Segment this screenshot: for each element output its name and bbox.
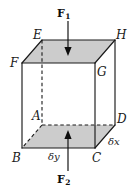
dimension-label-delta-y: δy bbox=[48, 152, 60, 162]
vertex-label-E: E bbox=[33, 29, 42, 41]
vertex-label-D: D bbox=[117, 113, 127, 125]
force-subscript-F2: 2 bbox=[65, 178, 70, 187]
vertex-label-H: H bbox=[116, 29, 126, 41]
force-label-F1: F1 bbox=[57, 8, 70, 19]
vertex-label-C: C bbox=[92, 152, 101, 164]
vertex-label-F: F bbox=[10, 57, 18, 69]
vertex-label-B: B bbox=[12, 152, 21, 164]
cube-force-diagram: E H F G A D B C δy δx F1 F2 bbox=[0, 0, 137, 191]
dimension-label-delta-x: δx bbox=[108, 137, 120, 147]
vertex-label-G: G bbox=[97, 66, 107, 78]
force-label-F2: F2 bbox=[57, 174, 70, 185]
force-symbol-F1: F bbox=[57, 7, 65, 20]
force-symbol-F2: F bbox=[57, 173, 65, 186]
vertex-label-A: A bbox=[32, 110, 41, 122]
force-subscript-F1: 1 bbox=[65, 12, 70, 21]
